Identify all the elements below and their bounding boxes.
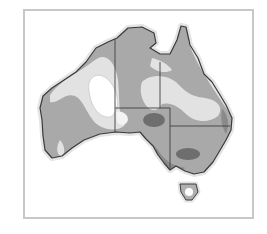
australia-map xyxy=(0,0,267,234)
tasmania xyxy=(180,184,198,200)
zone-dark-oval-southeast xyxy=(176,148,200,160)
zone-dark-oval-central xyxy=(143,113,165,127)
